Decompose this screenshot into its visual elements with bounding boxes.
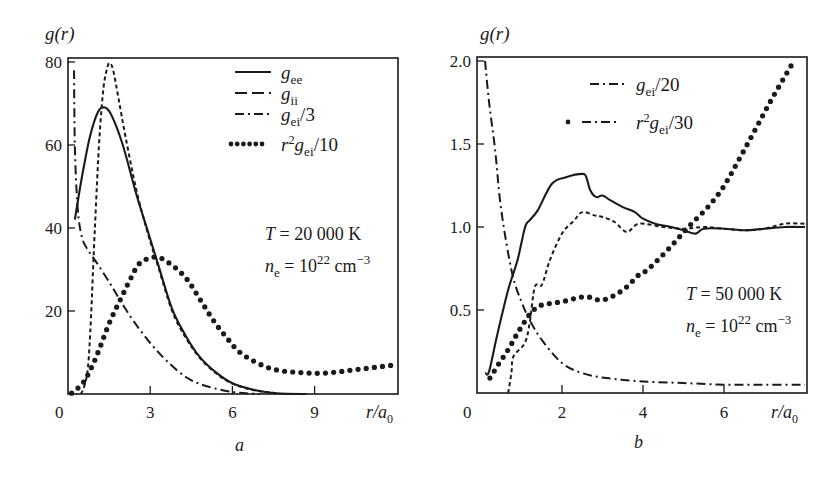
- panel-b-legend: gei/20r2gei/30: [566, 74, 693, 137]
- panel-a-annotation: T = 20 000 Kne = 1022 cm−3: [265, 224, 370, 280]
- svg-text:gei/3: gei/3: [281, 104, 315, 129]
- panel-b: g(r) 0.51.01.52.0246 gei/20r2gei/30 T = …: [450, 23, 807, 452]
- svg-text:r/a0: r/a0: [771, 402, 798, 426]
- svg-text:r/a0: r/a0: [366, 402, 393, 426]
- x-tick-label: 4: [639, 403, 648, 422]
- series-g-ee: [75, 107, 307, 394]
- y-tick-label: 60: [45, 136, 62, 155]
- x-tick-label: 3: [146, 403, 155, 422]
- y-tick-label: 2.0: [450, 52, 471, 71]
- svg-text:r2gei/30: r2gei/30: [636, 111, 693, 137]
- panel-a-x-axis-title: r/a0: [366, 402, 393, 426]
- y-tick-label: 20: [45, 302, 62, 321]
- panel-b-ticks: 0.51.01.52.0246: [450, 52, 729, 422]
- y-tick-label: 80: [45, 53, 62, 72]
- x-tick-label: 2: [558, 403, 567, 422]
- figure: g(r) 20406080369 geegiigei/3r2gei/10 T =…: [0, 0, 840, 481]
- density-label: ne = 1022 cm−3: [686, 312, 791, 340]
- legend-item: r2gei/10: [229, 133, 338, 159]
- legend-item: gei/3: [235, 104, 315, 129]
- panel-a: g(r) 20406080369 geegiigei/3r2gei/10 T =…: [45, 23, 398, 455]
- y-tick-label: 1.5: [450, 135, 471, 154]
- panel-b-annotation: T = 50 000 Kne = 1022 cm−3: [686, 284, 791, 340]
- svg-text:r2gei/10: r2gei/10: [281, 133, 338, 159]
- svg-text:gei/20: gei/20: [636, 74, 679, 99]
- legend-item: gei/20: [590, 74, 679, 99]
- panel-b-x-axis-title: r/a0: [771, 402, 798, 426]
- panel-a-y-axis-title: g(r): [45, 23, 75, 45]
- legend-item: r2gei/30: [566, 111, 693, 137]
- panel-b-y-axis-title: g(r): [480, 23, 510, 45]
- series-g-ei-20: [485, 61, 805, 385]
- panel-b-caption: b: [634, 432, 643, 452]
- panel-b-origin-label: 0: [463, 403, 472, 422]
- x-tick-label: 9: [310, 403, 319, 422]
- y-tick-label: 0.5: [450, 301, 471, 320]
- x-tick-label: 6: [720, 403, 729, 422]
- series-g-ee: [485, 174, 805, 375]
- x-tick-label: 6: [228, 403, 237, 422]
- series-r-2-g-ei-30: [487, 63, 793, 381]
- chart-canvas: g(r) 20406080369 geegiigei/3r2gei/10 T =…: [0, 0, 840, 481]
- density-label: ne = 1022 cm−3: [265, 252, 370, 280]
- panel-a-origin-label: 0: [55, 403, 64, 422]
- temperature-label: T = 20 000 K: [265, 224, 361, 244]
- y-tick-label: 40: [45, 219, 62, 238]
- temperature-label: T = 50 000 K: [686, 284, 782, 304]
- legend-item: gee: [235, 62, 302, 87]
- y-tick-label: 1.0: [450, 218, 471, 237]
- panel-a-caption: a: [235, 435, 244, 455]
- panel-a-legend: geegiigei/3r2gei/10: [229, 62, 338, 159]
